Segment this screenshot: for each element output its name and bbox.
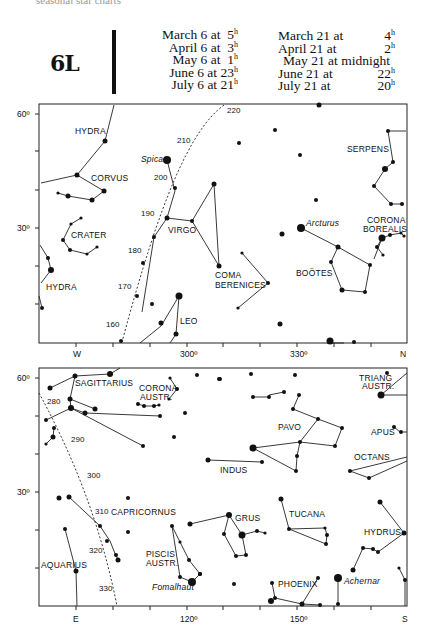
y-ticks [35, 114, 39, 304]
constellation-lines [39, 105, 406, 343]
label-sagittarius: SAGITTARIUS [75, 378, 133, 388]
star-chart: 60º 30º W 300º 330º N 220 210 200 190 18… [0, 0, 422, 638]
label-virgo: VIRGO [168, 225, 197, 235]
label-indus: INDUS [220, 465, 248, 475]
label-bootes: BOÖTES [296, 268, 333, 278]
label-phoenix: PHOENIX [278, 579, 318, 589]
label-coma: COMA [215, 270, 241, 280]
label-hydra-lower: HYDRA [46, 282, 77, 292]
ecliptic-mark: 330 [99, 584, 113, 593]
ecliptic-mark: 280 [47, 397, 61, 406]
label-fomalhaut: Fomalhaut [152, 582, 194, 592]
label-apus: APUS [371, 427, 395, 437]
y-tick-60: 60º [17, 109, 30, 119]
star-arcturus [297, 224, 305, 232]
label-serpens: SERPENS [347, 144, 389, 154]
ecliptic-mark: 220 [227, 106, 241, 115]
label-piscis-austr: AUSTR. [146, 558, 178, 568]
label-hydrus: HYDRUS [364, 527, 401, 537]
x-tick-330: 330º [290, 349, 307, 359]
label-hydra: HYDRA [75, 126, 106, 136]
ecliptic-mark: 160 [106, 320, 120, 329]
bottom-panel: 60º 30º E 120º 150º S 280 290 300 310 32… [17, 368, 408, 624]
x-tick-300: 300º [180, 349, 197, 359]
x-tick-e: E [73, 614, 79, 624]
ecliptic-mark: 290 [71, 435, 85, 444]
label-leo: LEO [180, 316, 198, 326]
ecliptic-mark: 180 [128, 246, 142, 255]
stars-top [40, 103, 406, 345]
label-crater: CRATER [71, 230, 107, 240]
label-triang-austr: AUSTR. [362, 381, 394, 391]
top-panel: 60º 30º W 300º 330º N 220 210 200 190 18… [17, 103, 407, 360]
ecliptic-mark: 200 [154, 173, 168, 182]
x-tick-n: N [400, 349, 406, 359]
label-borealis: BOREALIS [363, 224, 407, 234]
y-ticks [35, 378, 39, 568]
label-achernar: Achernar [343, 576, 381, 586]
label-corvus: CORVUS [91, 173, 129, 183]
label-aquarius: AQUARIUS [41, 560, 87, 570]
x-tick-150: 150º [290, 614, 307, 624]
label-capricornus: CAPRICORNUS [111, 507, 176, 517]
label-grus: GRUS [235, 513, 260, 523]
star-achernar [334, 574, 342, 582]
label-octans: OCTANS [354, 452, 390, 462]
label-corona-austr: AUSTR. [140, 392, 172, 402]
label-arcturus: Arcturus [305, 218, 340, 228]
label-tucana: TUCANA [289, 509, 325, 519]
ecliptic-line [39, 393, 117, 606]
x-tick-s: S [402, 614, 408, 624]
ecliptic-mark: 170 [118, 282, 132, 291]
x-ticks [76, 343, 371, 347]
label-spica: Spica [141, 154, 163, 164]
ecliptic-mark: 210 [177, 136, 191, 145]
ecliptic-mark: 320 [89, 546, 103, 555]
ecliptic-mark: 310 [95, 507, 109, 516]
y-tick-30: 30º [17, 487, 30, 497]
label-pavo: PAVO [278, 422, 301, 432]
x-tick-w: W [73, 349, 81, 359]
ecliptic-mark: 190 [141, 209, 155, 218]
y-tick-30: 30º [17, 223, 30, 233]
y-tick-60: 60º [17, 373, 30, 383]
star-spica [163, 156, 171, 164]
stars-bottom [44, 371, 407, 607]
x-tick-120: 120º [180, 614, 197, 624]
ecliptic-mark: 300 [87, 471, 101, 480]
label-berenices: BERENICES [215, 280, 266, 290]
x-ticks [76, 606, 371, 610]
